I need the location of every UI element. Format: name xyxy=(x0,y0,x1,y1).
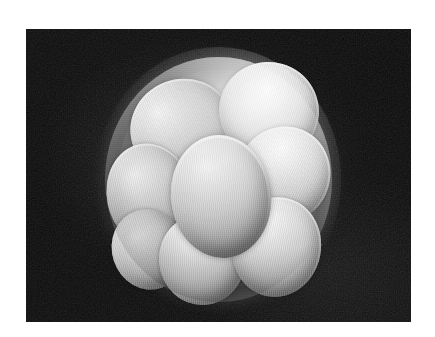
embryo-specimen xyxy=(105,57,332,302)
micrograph-figure: Scanning electron micrograph of an eight… xyxy=(0,0,435,337)
micrograph-plate xyxy=(26,29,411,322)
